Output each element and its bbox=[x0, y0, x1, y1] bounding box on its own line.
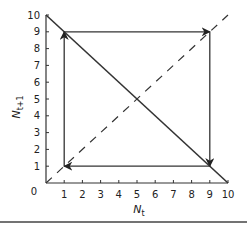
y-tick-label: 3 bbox=[34, 127, 40, 138]
y-tick-label: 8 bbox=[34, 43, 40, 54]
y-tick-label: 1 bbox=[34, 161, 40, 172]
x-tick-label: 2 bbox=[79, 189, 85, 200]
y-tick-label: 6 bbox=[34, 77, 40, 88]
y-tick-label: 9 bbox=[34, 26, 40, 37]
x-axis-label: Nt bbox=[133, 203, 144, 218]
y-tick-label: 0 bbox=[31, 186, 37, 197]
x-tick-label: 9 bbox=[207, 189, 213, 200]
axis-labels: NtNt+1 bbox=[10, 95, 145, 218]
x-tick-label: 6 bbox=[152, 189, 158, 200]
y-tick-label: 10 bbox=[27, 10, 40, 21]
x-tick-label: 4 bbox=[116, 189, 122, 200]
y-tick-label: 7 bbox=[34, 60, 40, 71]
y-tick-label: 2 bbox=[34, 144, 40, 155]
x-tick-label: 8 bbox=[188, 189, 194, 200]
x-tick-label: 1 bbox=[61, 189, 67, 200]
series bbox=[46, 15, 228, 183]
x-tick-label: 7 bbox=[170, 189, 176, 200]
y-axis-label: Nt+1 bbox=[10, 95, 25, 118]
y-tick-label: 5 bbox=[34, 94, 40, 105]
x-tick-label: 5 bbox=[134, 189, 140, 200]
x-tick-label: 3 bbox=[97, 189, 103, 200]
y-tick-label: 4 bbox=[34, 110, 40, 121]
x-tick-label: 10 bbox=[222, 189, 235, 200]
cobweb-chart: 01234567891012345678910 NtNt+1 bbox=[0, 0, 247, 228]
